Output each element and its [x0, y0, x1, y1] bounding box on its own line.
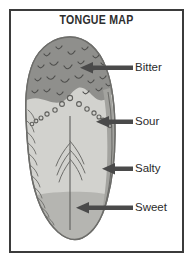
tongue-map-figure: TONGUE MAP — [0, 0, 195, 264]
label-salty: Salty — [135, 163, 161, 175]
tongue-illustration — [0, 0, 195, 264]
label-sour: Sour — [135, 116, 159, 128]
label-sweet: Sweet — [135, 202, 167, 214]
label-bitter: Bitter — [135, 62, 162, 74]
